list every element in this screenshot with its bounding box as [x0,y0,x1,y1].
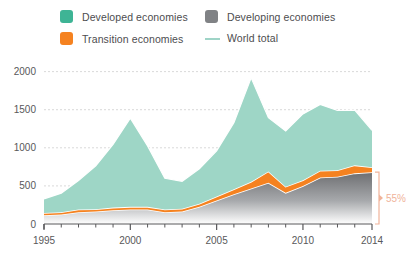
y-tick-label: 1500 [14,104,37,115]
line-swatch-icon [205,38,220,40]
plot-area: 0500100015002000 19952000200520102014 55… [0,56,418,263]
square-swatch-icon [60,32,73,45]
x-tick-label: 2005 [206,235,229,246]
legend-label: Transition economies [82,33,183,45]
legend-label: Developed economies [82,11,188,23]
y-tick-label: 1000 [14,142,37,153]
x-tick-label: 2010 [292,235,315,246]
y-tick-label: 0 [30,219,36,230]
x-tick-label: 1995 [33,235,56,246]
share-annotation-label: 55% [386,193,406,204]
legend-item-world-total[interactable]: World total [205,32,278,44]
stacked-areas [44,78,372,224]
legend-item-developed-economies[interactable]: Developed economies [60,10,188,23]
y-axis-labels: 0500100015002000 [14,66,37,229]
share-bracket-arrow [379,195,383,202]
area-chart-svg: 0500100015002000 19952000200520102014 55… [0,56,418,263]
square-swatch-icon [205,10,218,23]
legend-item-transition-economies[interactable]: Transition economies [60,32,183,45]
chart-root: Developed economies Transition economies… [0,0,418,263]
y-tick-label: 2000 [14,66,37,77]
legend-label: Developing economies [227,11,335,23]
chart-legend: Developed economies Transition economies… [60,8,410,52]
x-tick-label: 2014 [361,235,384,246]
x-axis-labels: 19952000200520102014 [33,235,384,246]
y-tick-label: 500 [19,180,36,191]
legend-item-developing-economies[interactable]: Developing economies [205,10,335,23]
square-swatch-icon [60,10,73,23]
share-bracket [375,172,379,224]
axes [44,224,372,230]
share-annotation: 55% [375,172,406,224]
legend-label: World total [227,32,278,44]
x-tick-label: 2000 [119,235,142,246]
